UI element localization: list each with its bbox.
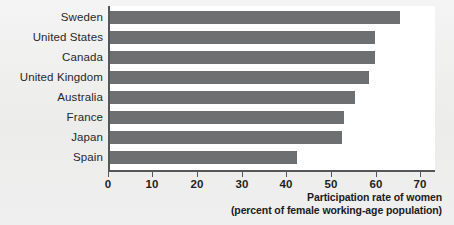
- y-axis-tick-label: United States: [0, 31, 103, 44]
- bar-canada: [110, 51, 375, 64]
- bar-row: [110, 51, 375, 64]
- bar-australia: [110, 91, 355, 104]
- chart-figure: Sweden United States Canada United Kingd…: [0, 0, 454, 225]
- y-axis-tick-label: France: [0, 111, 103, 124]
- y-axis-tick-label: Canada: [0, 51, 103, 64]
- bar-sweden: [110, 11, 400, 24]
- x-axis-tick: [286, 172, 287, 177]
- x-axis-tick-label: 70: [414, 178, 427, 190]
- x-axis-tick: [420, 172, 421, 177]
- y-axis-tick-label: Japan: [0, 131, 103, 144]
- y-axis-tick-label: Sweden: [0, 11, 103, 24]
- x-axis-tick: [108, 172, 109, 177]
- x-axis-caption-subtitle: (percent of female working-age populatio…: [0, 204, 442, 217]
- bar-row: [110, 11, 400, 24]
- x-axis-tick: [197, 172, 198, 177]
- x-axis-tick-label: 40: [280, 178, 293, 190]
- bar-row: [110, 151, 297, 164]
- x-axis-tick: [152, 172, 153, 177]
- bar-spain: [110, 151, 297, 164]
- x-axis-tick-label: 10: [146, 178, 159, 190]
- y-axis-tick-label: United Kingdom: [0, 71, 103, 84]
- bar-row: [110, 111, 344, 124]
- bar-united-states: [110, 31, 375, 44]
- x-axis-caption-title: Participation rate of women: [0, 191, 442, 204]
- bar-japan: [110, 131, 342, 144]
- x-axis-tick: [376, 172, 377, 177]
- x-axis-tick-label: 0: [105, 178, 111, 190]
- bar-united-kingdom: [110, 71, 369, 84]
- bar-row: [110, 31, 375, 44]
- x-axis-caption: Participation rate of women (percent of …: [0, 191, 448, 217]
- bar-france: [110, 111, 344, 124]
- x-axis-tick-label: 20: [191, 178, 204, 190]
- bar-row: [110, 91, 355, 104]
- y-axis-tick-label: Australia: [0, 91, 103, 104]
- y-axis-labels: Sweden United States Canada United Kingd…: [0, 6, 103, 172]
- x-axis-tick-label: 50: [325, 178, 338, 190]
- x-axis-tick-label: 30: [236, 178, 249, 190]
- bar-row: [110, 71, 369, 84]
- bar-row: [110, 131, 342, 144]
- x-axis-tick: [242, 172, 243, 177]
- y-axis-tick-label: Spain: [0, 151, 103, 164]
- x-axis-tick: [331, 172, 332, 177]
- x-axis-tick-label: 60: [370, 178, 383, 190]
- bar-series: [110, 6, 435, 170]
- plot-area: [108, 6, 435, 172]
